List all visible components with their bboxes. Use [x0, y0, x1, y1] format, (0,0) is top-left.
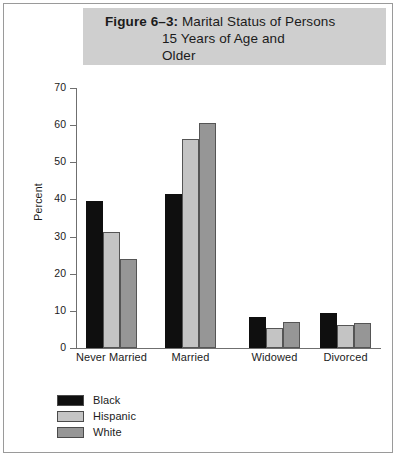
bar — [165, 194, 182, 348]
x-category-label: Widowed — [235, 351, 314, 363]
plot-area: Percent 010203040506070 Never MarriedMar… — [0, 0, 397, 457]
bar-group — [165, 88, 216, 348]
legend-swatch — [57, 427, 84, 438]
legend-label: Hispanic — [93, 410, 136, 422]
x-axis-category-labels: Never MarriedMarriedWidowedDivorced — [77, 351, 381, 371]
x-axis-line — [76, 348, 381, 349]
bar — [266, 328, 283, 348]
y-tick-10: 10 — [70, 311, 76, 312]
y-tick-20: 20 — [70, 274, 76, 275]
bar-group — [320, 88, 371, 348]
x-category-label: Married — [151, 351, 230, 363]
y-tick-70: 70 — [70, 88, 76, 89]
bar — [182, 139, 199, 348]
y-tick-40: 40 — [70, 199, 76, 200]
bar — [103, 232, 120, 348]
y-tick-label: 40 — [54, 192, 66, 204]
y-tick-60: 60 — [70, 125, 76, 126]
y-tick-label: 60 — [54, 118, 66, 130]
x-category-label: Divorced — [306, 351, 385, 363]
legend-item: White — [57, 425, 136, 439]
y-tick-50: 50 — [70, 162, 76, 163]
bar — [120, 259, 137, 348]
legend-swatch — [57, 411, 84, 422]
y-tick-30: 30 — [70, 237, 76, 238]
legend-label: White — [93, 426, 122, 438]
y-tick-label: 0 — [60, 341, 66, 353]
bar — [354, 323, 371, 348]
legend-swatch — [57, 395, 84, 406]
legend-item: Black — [57, 393, 136, 407]
chart-legend: BlackHispanicWhite — [57, 393, 136, 441]
bar-group — [86, 88, 137, 348]
bar — [337, 325, 354, 348]
y-tick-label: 10 — [54, 304, 66, 316]
bar — [199, 123, 216, 348]
bar — [249, 317, 266, 348]
figure-container: Figure 6–3: Marital Status of Persons 15… — [0, 0, 397, 457]
bar-group — [249, 88, 300, 348]
legend-item: Hispanic — [57, 409, 136, 423]
bar — [86, 201, 103, 348]
y-tick-0: 0 — [70, 348, 76, 349]
x-category-label: Never Married — [72, 351, 151, 363]
y-tick-label: 20 — [54, 267, 66, 279]
y-tick-label: 70 — [54, 81, 66, 93]
bar — [320, 313, 337, 348]
legend-label: Black — [93, 394, 120, 406]
y-axis-title: Percent — [32, 162, 44, 242]
y-tick-label: 50 — [54, 155, 66, 167]
y-tick-label: 30 — [54, 230, 66, 242]
bar-groups — [77, 88, 381, 348]
bar — [283, 322, 300, 348]
